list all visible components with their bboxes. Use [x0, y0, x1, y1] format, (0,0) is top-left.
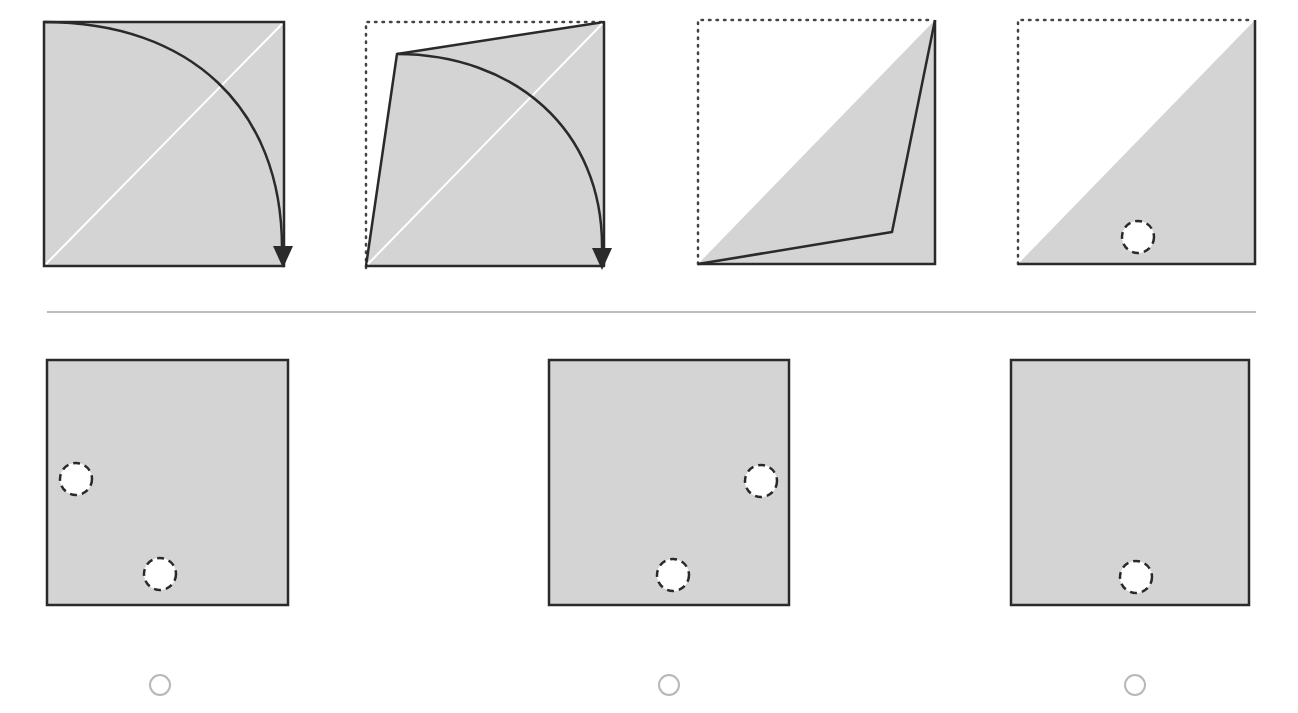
- punched-hole: [1122, 221, 1154, 253]
- option-c-figure[interactable]: [1009, 358, 1255, 608]
- paper-folding-puzzle: [0, 0, 1298, 713]
- section-divider: [47, 311, 1256, 313]
- option-b-figure[interactable]: [547, 358, 793, 608]
- option-a-radio[interactable]: [149, 674, 171, 696]
- option-a-figure[interactable]: [45, 358, 291, 608]
- fold-step-1: [40, 18, 300, 273]
- hole-bottom: [144, 558, 176, 590]
- hole-right-middle: [745, 465, 777, 497]
- option-c-radio[interactable]: [1124, 674, 1146, 696]
- triangle-paper: [698, 20, 935, 264]
- hole-bottom: [657, 559, 689, 591]
- fold-step-3: [694, 16, 944, 271]
- fold-step-2: [362, 18, 622, 273]
- hole-left-middle: [60, 463, 92, 495]
- hole-bottom: [1120, 561, 1152, 593]
- fold-step-4: [1014, 16, 1264, 271]
- option-b-radio[interactable]: [658, 674, 680, 696]
